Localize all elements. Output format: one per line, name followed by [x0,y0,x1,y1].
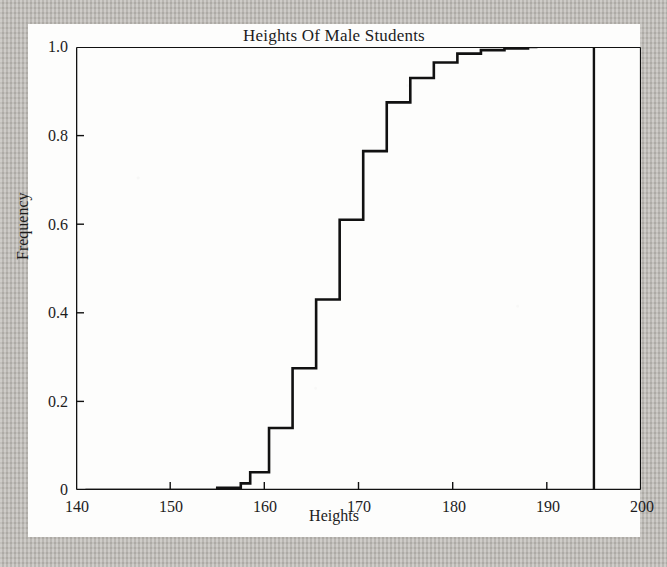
page-title: Heights Of Male Students [28,26,640,46]
y-tick-label-5: 0.2 [32,393,68,411]
y-tick-label-6: 0 [32,481,68,499]
y-tick-label-1: 1.0 [32,38,68,56]
cumulative-frequency-plot [76,47,641,490]
axes-frame [77,48,641,490]
plot-area [76,47,641,490]
y-axis-label: Frequency [14,192,32,260]
step-curve-series [85,47,537,490]
y-tick-label-4: 0.4 [32,304,68,322]
figure-canvas: Heights Of Male Students Frequency 1.0 0… [28,24,640,537]
x-axis-label: Heights [28,507,640,525]
y-tick-label-3: 0.6 [32,216,68,234]
y-tick-marks [77,136,85,402]
y-tick-label-2: 0.8 [32,127,68,145]
